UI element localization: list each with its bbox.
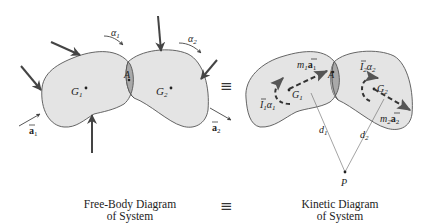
force-arrow-icon — [201, 60, 217, 79]
kinetic-diagram: P d1 d2 A G1 G2 m1a1 I1α1 I2α2 m2a — [246, 51, 413, 188]
caption-line-2: of System — [280, 210, 400, 222]
d1-line — [311, 93, 345, 172]
d2-label: d2 — [360, 129, 369, 142]
a1-label: a1 — [29, 125, 38, 138]
caption-line-1: Free-Body Diagram — [70, 198, 190, 210]
g2-point — [170, 87, 173, 90]
a-label: A — [123, 69, 131, 80]
equivalence-symbol: ≡ — [220, 79, 233, 94]
free-body-caption: Free-Body Diagram of System — [70, 198, 190, 222]
p-label: P — [340, 177, 347, 188]
caption-line-2: of System — [70, 210, 190, 222]
force-arrow-icon — [51, 42, 80, 55]
kinetic-caption: Kinetic Diagram of System — [280, 198, 400, 222]
equivalence-symbol-caption: ≡ — [220, 199, 233, 214]
diagram-canvas: G1 G2 A α1 α2 a1 a2 — [0, 0, 431, 224]
caption-line-1: Kinetic Diagram — [280, 198, 400, 210]
alpha2-label: α2 — [188, 33, 197, 46]
body-2-shape — [126, 50, 208, 127]
a2-arrow-icon — [210, 108, 231, 120]
free-body-diagram: G1 G2 A α1 α2 a1 a2 — [19, 16, 231, 153]
p-point — [344, 171, 347, 174]
force-arrow-icon — [21, 66, 41, 90]
d1-label: d1 — [319, 124, 328, 137]
g1-point — [85, 87, 88, 90]
body-1-shape — [42, 52, 134, 127]
a-label: A — [327, 69, 335, 80]
a2-label: a2 — [212, 122, 221, 135]
force-arrow-icon — [158, 16, 161, 51]
